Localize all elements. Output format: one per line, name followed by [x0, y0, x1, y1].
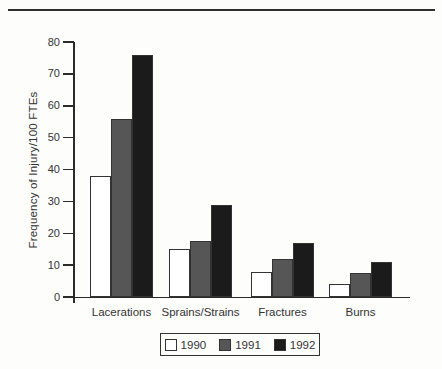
legend-label-1990: 1990: [181, 339, 207, 351]
bar-group-sprains-strains: [169, 205, 232, 297]
bar-1990-burns: [329, 284, 350, 297]
bar-group-fractures: [251, 243, 314, 297]
legend-box: 199019911992: [160, 333, 320, 356]
y-tick-label-80: 80: [32, 36, 60, 49]
legend-label-1991: 1991: [235, 339, 261, 351]
y-tick-label-20: 20: [32, 227, 60, 240]
y-tick-20: [63, 233, 74, 235]
legend-label-1992: 1992: [290, 339, 316, 351]
bar-1990-lacerations: [90, 176, 111, 297]
y-tick-40: [63, 169, 74, 171]
chart-area: Frequency of Injury/100 FTEs 01020304050…: [0, 0, 442, 369]
bar-1990-sprains-strains: [169, 249, 190, 297]
y-tick-label-50: 50: [32, 131, 60, 144]
y-tick-label-30: 30: [32, 195, 60, 208]
y-tick-label-70: 70: [32, 67, 60, 80]
legend-swatch-1990: [165, 339, 177, 351]
y-tick-60: [63, 105, 74, 107]
bar-1991-burns: [350, 273, 371, 297]
bar-1991-fractures: [272, 259, 293, 297]
legend-item-1991: 1991: [219, 339, 261, 351]
bar-1990-fractures: [251, 272, 272, 298]
bar-1991-sprains-strains: [190, 241, 211, 297]
bar-group-lacerations: [90, 55, 153, 297]
legend-item-1990: 1990: [165, 339, 207, 351]
bar-1991-lacerations: [111, 119, 132, 298]
y-tick-label-60: 60: [32, 99, 60, 112]
legend-item-1992: 1992: [274, 339, 316, 351]
bar-1992-sprains-strains: [211, 205, 232, 297]
y-tick-10: [63, 264, 74, 266]
y-tick-50: [63, 137, 74, 139]
y-tick-label-0: 0: [32, 291, 60, 304]
legend-swatch-1992: [274, 339, 286, 351]
y-tick-80: [63, 41, 74, 43]
bar-1992-burns: [371, 262, 392, 297]
y-tick-70: [63, 73, 74, 75]
plot-area: [74, 42, 410, 297]
y-tick-label-40: 40: [32, 163, 60, 176]
x-label-burns: Burns: [291, 306, 431, 318]
bar-group-burns: [329, 262, 392, 297]
y-tick-label-10: 10: [32, 259, 60, 272]
y-tick-30: [63, 201, 74, 203]
legend-swatch-1991: [219, 339, 231, 351]
bar-chart-figure: Frequency of Injury/100 FTEs 01020304050…: [0, 0, 442, 369]
bar-1992-fractures: [293, 243, 314, 297]
bar-1992-lacerations: [132, 55, 153, 297]
y-tick-0: [63, 296, 74, 298]
